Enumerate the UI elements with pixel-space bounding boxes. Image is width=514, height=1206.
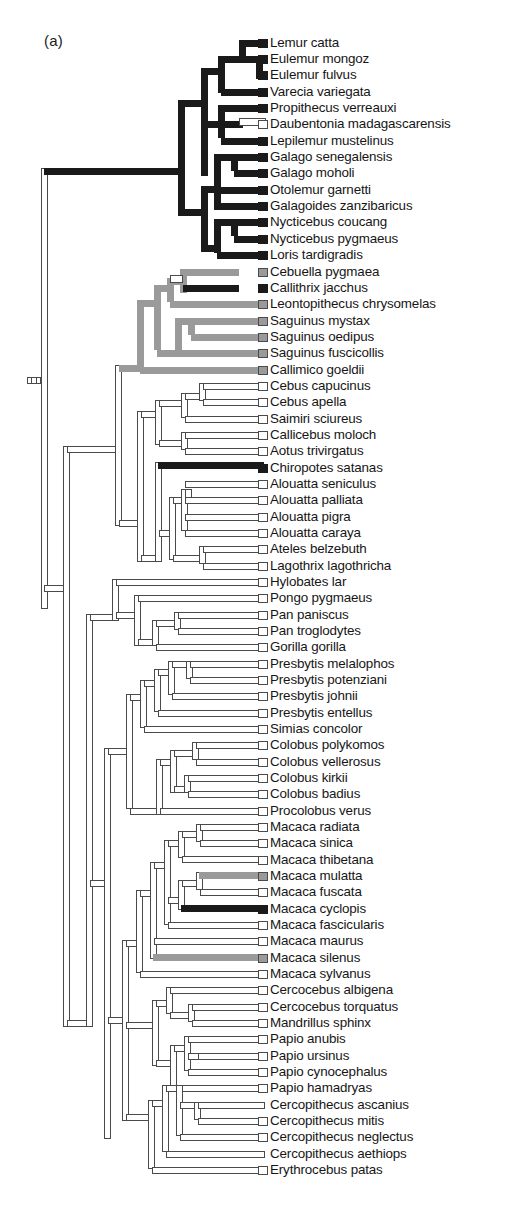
- taxon-label: Leontopithecus chrysomelas: [270, 297, 436, 310]
- taxon-label: Papio hamadryas: [270, 1081, 372, 1094]
- taxon-label: Cercocebus albigena: [270, 983, 393, 996]
- taxon-label: Hylobates lar: [270, 575, 346, 588]
- taxon-label: Colobus polykomos: [270, 738, 384, 751]
- taxon-label: Alouatta caraya: [270, 526, 361, 539]
- taxon-label: Simias concolor: [270, 722, 362, 735]
- taxon-label: Presbytis melalophos: [270, 657, 394, 670]
- taxon-label: Lagothrix lagothricha: [270, 559, 391, 572]
- taxon-label: Erythrocebus patas: [270, 1163, 383, 1176]
- taxon-label: Alouatta pigra: [270, 510, 351, 523]
- taxon-label: Callicebus moloch: [270, 428, 376, 441]
- taxon-label: Presbytis potenziani: [270, 673, 387, 686]
- taxon-label: Pongo pygmaeus: [270, 591, 372, 604]
- taxon-label: Alouatta seniculus: [270, 477, 376, 490]
- taxon-label: Chiropotes satanas: [270, 461, 383, 474]
- taxon-label: Saguinus mystax: [270, 314, 370, 327]
- taxon-label: Cebuella pygmaea: [270, 265, 379, 278]
- taxon-label: Alouatta palliata: [270, 493, 363, 506]
- taxon-label: Cercopithecus neglectus: [270, 1130, 413, 1143]
- taxon-label: Macaca fuscata: [270, 885, 362, 898]
- taxon-label: Otolemur garnetti: [270, 183, 371, 196]
- taxon-label: Macaca thibetana: [270, 853, 373, 866]
- taxon-label: Cebus capucinus: [270, 379, 370, 392]
- taxon-label: Saguinus fuscicollis: [270, 346, 384, 359]
- taxon-label: Lemur catta: [270, 36, 339, 49]
- taxon-label: Macaca fascicularis: [270, 918, 384, 931]
- taxon-label: Varecia variegata: [270, 85, 371, 98]
- taxon-label: Daubentonia madagascarensis: [270, 117, 451, 130]
- taxon-label: Cercopithecus aethiops: [270, 1147, 407, 1160]
- taxon-label: Galagoides zanzibaricus: [270, 199, 412, 212]
- taxon-label: Pan troglodytes: [270, 624, 361, 637]
- taxon-label: Callithrix jacchus: [270, 281, 368, 294]
- taxon-label: Pan paniscus: [270, 608, 349, 621]
- taxon-label: Nycticebus pygmaeus: [270, 232, 398, 245]
- taxon-label: Macaca mulatta: [270, 869, 362, 882]
- figure-root: (a): [0, 0, 514, 1206]
- taxon-label: Nycticebus coucang: [270, 215, 387, 228]
- taxon-label: Saimiri sciureus: [270, 412, 362, 425]
- taxon-label: Macaca cyclopis: [270, 902, 366, 915]
- taxon-label: Colobus vellerosus: [270, 755, 380, 768]
- taxon-label: Gorilla gorilla: [270, 640, 346, 653]
- taxon-label: Cercocebus torquatus: [270, 1000, 398, 1013]
- taxon-label: Presbytis johnii: [270, 689, 358, 702]
- taxon-label: Loris tardigradis: [270, 248, 363, 261]
- taxon-label: Aotus trivirgatus: [270, 444, 363, 457]
- taxon-label: Macaca sinica: [270, 836, 353, 849]
- taxon-label: Macaca radiata: [270, 820, 359, 833]
- taxon-label: Lepilemur mustelinus: [270, 134, 394, 147]
- taxon-label: Presbytis entellus: [270, 706, 372, 719]
- taxon-label: Galago moholi: [270, 166, 354, 179]
- taxon-label-column: Lemur cattaEulemur mongozEulemur fulvusV…: [0, 0, 514, 1206]
- taxon-label: Papio cynocephalus: [270, 1065, 387, 1078]
- taxon-label: Macaca silenus: [270, 951, 360, 964]
- taxon-label: Cebus apella: [270, 395, 346, 408]
- taxon-label: Eulemur fulvus: [270, 68, 356, 81]
- taxon-label: Eulemur mongoz: [270, 52, 369, 65]
- taxon-label: Propithecus verreauxi: [270, 101, 396, 114]
- taxon-label: Cercopithecus ascanius: [270, 1098, 409, 1111]
- taxon-label: Saguinus oedipus: [270, 330, 374, 343]
- taxon-label: Callimico goeldii: [270, 363, 364, 376]
- taxon-label: Papio anubis: [270, 1032, 346, 1045]
- taxon-label: Cercopithecus mitis: [270, 1114, 384, 1127]
- taxon-label: Colobus badius: [270, 787, 360, 800]
- taxon-label: Macaca sylvanus: [270, 967, 370, 980]
- taxon-label: Colobus kirkii: [270, 771, 348, 784]
- taxon-label: Galago senegalensis: [270, 150, 392, 163]
- taxon-label: Macaca maurus: [270, 934, 363, 947]
- taxon-label: Procolobus verus: [270, 804, 371, 817]
- taxon-label: Mandrillus sphinx: [270, 1016, 371, 1029]
- taxon-label: Papio ursinus: [270, 1049, 349, 1062]
- taxon-label: Ateles belzebuth: [270, 542, 367, 555]
